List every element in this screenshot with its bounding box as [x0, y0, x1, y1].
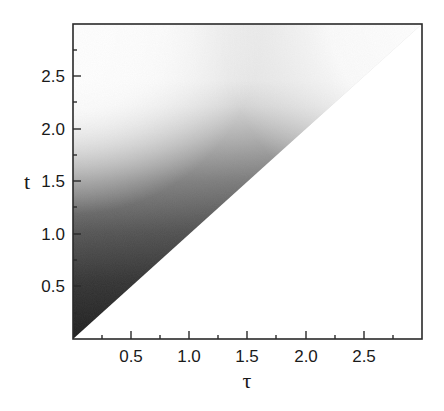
x-tick-labels: 0.5 1.0 1.5 2.0 2.5 [119, 347, 376, 366]
x-tick-label: 2.5 [352, 347, 376, 366]
density-region [73, 24, 422, 339]
y-tick-label: 0.5 [41, 277, 65, 296]
y-axis-label: t [24, 169, 30, 194]
y-tick-label: 2.0 [41, 120, 65, 139]
x-axis-label: τ [243, 368, 252, 393]
y-tick-label: 1.5 [41, 172, 65, 191]
density-plot: 0.5 1.0 1.5 2.0 2.5 0.5 1.0 1.5 2.0 2.5 … [0, 0, 444, 411]
x-tick-label: 2.0 [294, 347, 318, 366]
y-tick-label: 1.0 [41, 225, 65, 244]
x-tick-label: 0.5 [119, 347, 143, 366]
x-tick-label: 1.0 [177, 347, 201, 366]
x-tick-label: 1.5 [235, 347, 259, 366]
y-tick-label: 2.5 [41, 67, 65, 86]
y-tick-labels: 0.5 1.0 1.5 2.0 2.5 [41, 67, 65, 296]
x-axis-ticks [102, 331, 393, 339]
